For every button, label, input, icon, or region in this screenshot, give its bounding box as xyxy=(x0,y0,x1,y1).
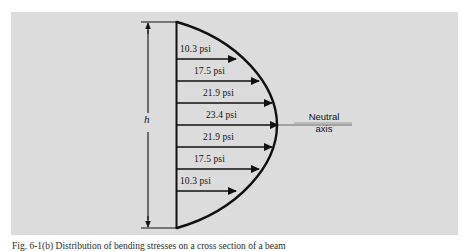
figure-caption: Fig. 6-1(b) Distribution of bending stre… xyxy=(12,241,464,251)
neutral-axis-label-line2: axis xyxy=(292,123,356,135)
pressure-label-3: 21.9 psi xyxy=(203,88,234,98)
pressure-label-6: 17.5 psi xyxy=(194,154,225,164)
pressure-label-1: 10.3 psi xyxy=(180,44,211,54)
pressure-arrow-group xyxy=(177,59,278,191)
pressure-label-7: 10.3 psi xyxy=(180,176,211,186)
pressure-label-5: 21.9 psi xyxy=(203,132,234,142)
neutral-axis-label: Neutral axis xyxy=(292,111,356,135)
height-dimension xyxy=(141,22,178,228)
pressure-label-2: 17.5 psi xyxy=(194,66,225,76)
neutral-axis-label-line1: Neutral xyxy=(292,111,356,123)
pressure-label-4: 23.4 psi xyxy=(206,110,237,120)
height-symbol-label: h xyxy=(144,113,150,125)
